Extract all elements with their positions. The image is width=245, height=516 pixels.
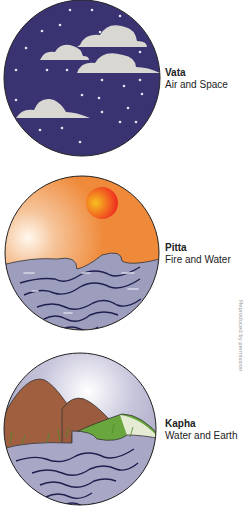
dosha-description: Air and Space xyxy=(165,79,228,91)
vata-panel: Vata Air and Space xyxy=(0,0,245,170)
dosha-description: Water and Earth xyxy=(165,430,237,442)
dosha-name: Pitta xyxy=(165,242,231,254)
kapha-label: Kapha Water and Earth xyxy=(165,418,237,442)
vata-label: Vata Air and Space xyxy=(165,67,228,91)
dosha-description: Fire and Water xyxy=(165,254,231,266)
kapha-panel: Kapha Water and Earth xyxy=(0,345,245,516)
kapha-water-earth-illustration xyxy=(2,349,158,509)
pitta-label: Pitta Fire and Water xyxy=(165,242,231,266)
pitta-panel: Pitta Fire and Water xyxy=(0,170,245,345)
vata-air-space-illustration xyxy=(2,0,162,160)
image-credit: Reproduced by permission xyxy=(236,300,244,516)
dosha-name: Kapha xyxy=(165,418,237,430)
dosha-name: Vata xyxy=(165,67,228,79)
pitta-fire-water-illustration xyxy=(2,173,162,333)
